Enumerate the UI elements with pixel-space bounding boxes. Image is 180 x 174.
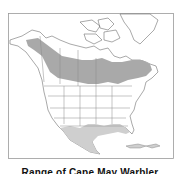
- range-map: [0, 0, 180, 174]
- map-caption: Range of Cape May Warbler: [0, 167, 180, 174]
